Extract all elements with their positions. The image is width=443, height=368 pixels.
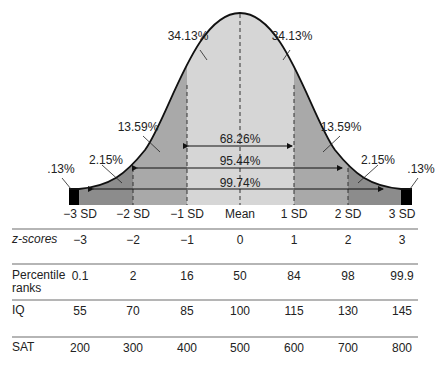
pct-label: 34.13%	[272, 29, 313, 43]
pct-label: 2.15%	[89, 153, 123, 167]
span-label-68: 68.26%	[220, 132, 261, 146]
table-cell: 115	[284, 304, 303, 318]
tail-block-right	[401, 189, 412, 205]
span-label-99: 99.74%	[220, 176, 261, 190]
table-cell: 55	[73, 304, 86, 318]
region-tail-right	[348, 0, 408, 210]
axis-label: −1 SD	[170, 207, 204, 221]
table-cell: 70	[126, 304, 139, 318]
pct-label: 2.15%	[361, 153, 395, 167]
tail-block-left	[69, 189, 79, 205]
divider	[12, 228, 418, 230]
divider	[12, 336, 418, 338]
region-tail-left	[60, 0, 133, 210]
table-cell: 2	[130, 269, 137, 283]
table-cell: 145	[392, 304, 412, 318]
normal-curve-chart: 34.13% 34.13% 13.59% 13.59% 2.15% 2.15% …	[0, 0, 443, 210]
pct-label: .13%	[47, 162, 75, 176]
table-cell: 0	[237, 233, 244, 247]
axis-label: −3 SD	[63, 207, 97, 221]
table-cell: −3	[73, 233, 87, 247]
pct-label: 13.59%	[118, 120, 159, 134]
table-cell: 84	[287, 269, 300, 283]
table-cell: 0.1	[72, 269, 89, 283]
table-cell: 200	[70, 341, 90, 355]
table-cell: 130	[338, 304, 358, 318]
table-cell: 100	[230, 304, 250, 318]
axis-label: −2 SD	[116, 207, 150, 221]
table-cell: 400	[177, 341, 197, 355]
divider	[12, 299, 418, 301]
row-label-iq: IQ	[12, 304, 25, 317]
table-cell: 600	[284, 341, 304, 355]
table-cell: 3	[399, 233, 406, 247]
pct-label: 34.13%	[168, 29, 209, 43]
table-cell: 99.9	[390, 269, 413, 283]
table-cell: 50	[233, 269, 246, 283]
row-label-sat: SAT	[12, 341, 34, 354]
table-cell: 300	[123, 341, 143, 355]
table-cell: 98	[341, 269, 354, 283]
span-label-95: 95.44%	[220, 154, 261, 168]
axis-label: 2 SD	[335, 207, 362, 221]
table-cell: 700	[338, 341, 358, 355]
table-cell: 16	[180, 269, 193, 283]
axis-label: 3 SD	[389, 207, 416, 221]
table-cell: 85	[180, 304, 193, 318]
pct-label: 13.59%	[321, 120, 362, 134]
divider	[12, 263, 418, 265]
table-cell: −1	[180, 233, 194, 247]
row-label-z-scores: z-scores	[12, 233, 57, 246]
table-cell: 1	[291, 233, 298, 247]
table-cell: −2	[126, 233, 140, 247]
table-cell: 500	[230, 341, 250, 355]
pct-label: .13%	[407, 162, 435, 176]
axis-label: 1 SD	[281, 207, 308, 221]
table-cell: 800	[392, 341, 412, 355]
row-label-percentile: Percentile ranks	[12, 269, 65, 295]
axis-label: Mean	[225, 207, 255, 221]
table-cell: 2	[345, 233, 352, 247]
